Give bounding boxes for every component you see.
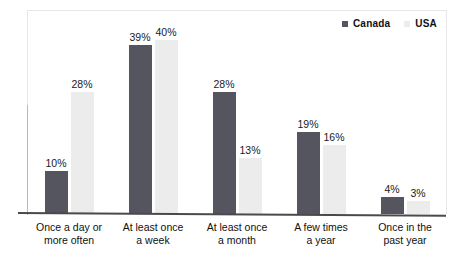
bar-group: 4%3% <box>363 10 447 214</box>
bar-canada <box>213 92 236 214</box>
bar-item: 16% <box>323 10 346 214</box>
bar-canada <box>45 171 68 214</box>
bar-usa <box>323 145 346 214</box>
category-label-line1: Once in the <box>356 221 453 234</box>
bar-canada <box>381 197 404 214</box>
bar-canada <box>129 45 152 214</box>
bar-usa <box>239 158 262 214</box>
bar-group: 39%40% <box>111 10 195 214</box>
bar-item: 40% <box>155 10 178 214</box>
bar-item: 28% <box>71 10 94 214</box>
bar-item: 39% <box>129 10 152 214</box>
category-label: Once in thepast year <box>356 221 453 247</box>
grouped-bar-chart: Canada USA 10%28%39%40%28%13%19%16%4%3% … <box>0 0 453 262</box>
bar-item: 28% <box>213 10 236 214</box>
bar-value-label: 16% <box>323 132 344 143</box>
bar-item: 4% <box>381 10 404 214</box>
bar-value-label: 3% <box>410 188 425 199</box>
bar-item: 13% <box>239 10 262 214</box>
bar-item: 19% <box>297 10 320 214</box>
bar-value-label: 13% <box>239 145 260 156</box>
bar-value-label: 28% <box>213 79 234 90</box>
bar-usa <box>155 40 178 214</box>
plot-area: 10%28%39%40%28%13%19%16%4%3% <box>27 10 447 214</box>
bar-value-label: 4% <box>384 184 399 195</box>
bar-value-label: 28% <box>71 79 92 90</box>
bar-usa <box>407 201 430 214</box>
bar-item: 10% <box>45 10 68 214</box>
bar-value-label: 39% <box>129 32 150 43</box>
bar-group: 28%13% <box>195 10 279 214</box>
bar-item: 3% <box>407 10 430 214</box>
bar-value-label: 10% <box>45 158 66 169</box>
bar-value-label: 19% <box>297 119 318 130</box>
bar-value-label: 40% <box>155 27 176 38</box>
bar-group: 19%16% <box>279 10 363 214</box>
bar-canada <box>297 132 320 214</box>
bar-group: 10%28% <box>27 10 111 214</box>
x-axis-category-labels: Once a day ormore oftenAt least oncea we… <box>27 221 447 261</box>
bar-usa <box>71 92 94 214</box>
category-label-line2: past year <box>356 234 453 247</box>
